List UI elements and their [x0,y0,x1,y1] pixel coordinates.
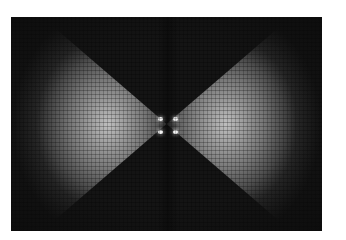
pattern-image [11,17,322,231]
vignette [11,17,322,231]
